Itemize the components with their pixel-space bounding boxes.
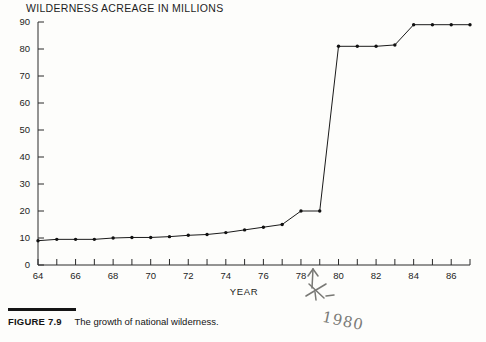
data-point-marker — [149, 236, 152, 239]
data-point-marker — [74, 238, 77, 241]
figure-caption-text: The growth of national wilderness. — [74, 316, 218, 327]
x-axis-tick-label: 68 — [108, 270, 119, 281]
y-axis-tick-label: 50 — [19, 124, 30, 135]
y-axis-tick-label: 80 — [19, 43, 30, 54]
chart-plot-area: 0102030405060708090646668707274767880828… — [0, 0, 486, 300]
data-point-marker — [93, 238, 96, 241]
x-axis-tick-label: 70 — [145, 270, 156, 281]
data-point-marker — [299, 209, 302, 212]
data-point-marker — [262, 226, 265, 229]
x-axis-tick-label: 82 — [371, 270, 382, 281]
x-axis-tick-label: 66 — [70, 270, 81, 281]
caption-rule — [8, 308, 76, 311]
y-axis-tick-label: 0 — [25, 259, 30, 270]
handwritten-year-annotation: 1980 — [321, 308, 366, 334]
data-point-marker — [318, 209, 321, 212]
line-chart-svg: 0102030405060708090646668707274767880828… — [0, 0, 486, 300]
data-point-marker — [168, 235, 171, 238]
data-point-marker — [36, 239, 39, 242]
figure-number-label: FIGURE 7.9 — [8, 316, 62, 327]
data-point-marker — [187, 234, 190, 237]
data-point-marker — [205, 233, 208, 236]
data-point-marker — [55, 238, 58, 241]
y-axis-tick-label: 10 — [19, 232, 30, 243]
data-point-marker — [280, 223, 283, 226]
y-axis-tick-label: 30 — [19, 178, 30, 189]
figure-caption-block: FIGURE 7.9 The growth of national wilder… — [8, 308, 308, 327]
x-axis-name: YEAR — [230, 286, 258, 297]
data-point-marker — [468, 23, 471, 26]
y-axis-tick-label: 20 — [19, 205, 30, 216]
data-point-marker — [450, 23, 453, 26]
y-axis-tick-label: 90 — [19, 16, 30, 27]
data-point-marker — [243, 228, 246, 231]
x-axis-tick-label: 72 — [183, 270, 194, 281]
data-point-marker — [337, 45, 340, 48]
data-series-line — [38, 25, 470, 241]
figure-container: WILDERNESS ACREAGE IN MILLIONS 010203040… — [0, 0, 486, 342]
y-axis-tick-label: 70 — [19, 70, 30, 81]
x-axis-tick-label: 64 — [33, 270, 44, 281]
y-axis-tick-label: 60 — [19, 97, 30, 108]
x-axis-tick-label: 86 — [446, 270, 457, 281]
y-axis-tick-label: 40 — [19, 151, 30, 162]
x-axis-tick-label: 76 — [258, 270, 269, 281]
data-point-marker — [412, 23, 415, 26]
data-point-marker — [374, 45, 377, 48]
data-point-marker — [130, 236, 133, 239]
data-point-marker — [356, 45, 359, 48]
x-axis-tick-label: 74 — [221, 270, 232, 281]
caption-text-row: FIGURE 7.9 The growth of national wilder… — [8, 316, 308, 327]
data-point-marker — [111, 236, 114, 239]
data-point-marker — [224, 231, 227, 234]
data-point-marker — [431, 23, 434, 26]
data-point-marker — [393, 43, 396, 46]
x-axis-tick-label: 84 — [408, 270, 419, 281]
up-arrow-pencil-mark-icon — [300, 266, 344, 312]
